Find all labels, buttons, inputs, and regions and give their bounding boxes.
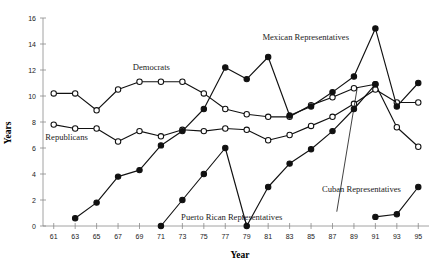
x-tick-label: 93 — [393, 233, 401, 240]
data-point-marker — [287, 161, 292, 166]
x-tick-label: 73 — [178, 233, 186, 240]
x-tick-label: 71 — [157, 233, 165, 240]
x-tick-label: 85 — [307, 233, 315, 240]
data-series-puerto-rican-representatives — [158, 82, 378, 229]
data-point-marker — [416, 184, 421, 189]
data-point-marker — [394, 125, 399, 130]
data-point-marker — [223, 65, 228, 70]
data-point-marker — [180, 128, 185, 133]
data-point-marker — [115, 174, 120, 179]
y-axis-title: Years — [3, 121, 13, 144]
series-annotation-label: Mexican Representatives — [262, 32, 349, 42]
data-point-marker — [158, 134, 163, 139]
data-point-marker — [94, 126, 99, 131]
y-tick-label: 2 — [32, 197, 36, 204]
x-tick-label: 87 — [329, 233, 337, 240]
data-point-marker — [394, 212, 399, 217]
data-point-marker — [351, 74, 356, 79]
data-point-marker — [115, 139, 120, 144]
y-tick-label: 10 — [28, 93, 36, 100]
data-point-marker — [158, 143, 163, 148]
data-point-marker — [244, 112, 249, 117]
data-point-marker — [416, 80, 421, 85]
series-annotation-label: Puerto Rican Representatives — [181, 212, 283, 222]
x-tick-label: 95 — [414, 233, 422, 240]
data-point-marker — [373, 214, 378, 219]
data-point-marker — [94, 108, 99, 113]
chart-canvas: 0246810121416 61636567697173757779818385… — [0, 0, 438, 270]
data-point-marker — [416, 144, 421, 149]
x-tick-label: 83 — [286, 233, 294, 240]
data-point-marker — [180, 197, 185, 202]
x-axis-tick-labels: 616365676971737577798183858789919395 — [50, 233, 422, 240]
y-tick-label: 14 — [28, 41, 36, 48]
series-annotation-label: Cuban Representatives — [322, 184, 402, 194]
data-point-marker — [158, 223, 163, 228]
y-tick-label: 4 — [32, 171, 36, 178]
data-point-marker — [223, 145, 228, 150]
data-point-marker — [137, 128, 142, 133]
y-tick-label: 16 — [28, 15, 36, 22]
data-point-marker — [158, 79, 163, 84]
x-tick-label: 65 — [93, 233, 101, 240]
data-point-marker — [244, 127, 249, 132]
y-tick-label: 0 — [32, 223, 36, 230]
data-point-marker — [308, 147, 313, 152]
data-point-marker — [265, 54, 270, 59]
data-series-democrats — [51, 79, 421, 149]
data-point-marker — [72, 91, 77, 96]
series-annotation-label: Republicans — [45, 132, 88, 142]
x-tick-label: 69 — [136, 233, 144, 240]
data-point-marker — [223, 126, 228, 131]
y-axis-tick-labels: 0246810121416 — [28, 15, 36, 230]
data-point-marker — [51, 91, 56, 96]
data-point-marker — [115, 87, 120, 92]
data-point-marker — [72, 216, 77, 221]
data-series-group — [51, 26, 421, 229]
data-point-marker — [223, 106, 228, 111]
data-point-marker — [265, 184, 270, 189]
data-point-marker — [330, 95, 335, 100]
x-tick-label: 61 — [50, 233, 58, 240]
data-point-marker — [72, 126, 77, 131]
x-tick-label: 63 — [71, 233, 79, 240]
data-point-marker — [180, 79, 185, 84]
data-point-marker — [330, 114, 335, 119]
data-point-marker — [308, 123, 313, 128]
series-line — [161, 84, 375, 226]
x-tick-label: 81 — [264, 233, 272, 240]
x-tick-label: 89 — [350, 233, 358, 240]
data-point-marker — [308, 104, 313, 109]
series-line — [54, 82, 419, 147]
y-tick-label: 6 — [32, 145, 36, 152]
x-axis-title: Year — [231, 250, 251, 260]
y-tick-label: 12 — [28, 67, 36, 74]
line-chart-figure: 0246810121416 61636567697173757779818385… — [0, 0, 438, 270]
data-point-marker — [244, 223, 249, 228]
x-tick-label: 91 — [371, 233, 379, 240]
data-point-marker — [201, 91, 206, 96]
data-point-marker — [287, 132, 292, 137]
data-point-marker — [351, 86, 356, 91]
data-point-marker — [330, 128, 335, 133]
y-tick-label: 8 — [32, 119, 36, 126]
data-point-marker — [201, 128, 206, 133]
data-point-marker — [373, 87, 378, 92]
x-tick-label: 67 — [114, 233, 122, 240]
data-point-marker — [287, 113, 292, 118]
data-point-marker — [373, 26, 378, 31]
data-point-marker — [373, 82, 378, 87]
data-point-marker — [330, 89, 335, 94]
data-point-marker — [201, 106, 206, 111]
data-point-marker — [137, 79, 142, 84]
data-point-marker — [201, 171, 206, 176]
data-point-marker — [265, 114, 270, 119]
x-tick-label: 77 — [221, 233, 229, 240]
x-tick-label: 79 — [243, 233, 251, 240]
data-point-marker — [137, 167, 142, 172]
data-point-marker — [51, 122, 56, 127]
data-point-marker — [265, 138, 270, 143]
axes — [40, 18, 429, 229]
x-tick-label: 75 — [200, 233, 208, 240]
data-point-marker — [416, 100, 421, 105]
